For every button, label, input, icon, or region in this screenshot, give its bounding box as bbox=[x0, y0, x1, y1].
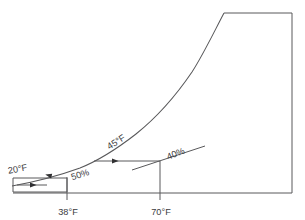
axis-label-70f: 70°F bbox=[144, 201, 178, 219]
axis-label-38f: 38°F bbox=[51, 201, 85, 219]
diagram-canvas bbox=[0, 0, 305, 220]
axis-label-70f-text: 70°F bbox=[151, 207, 171, 217]
label-inlet-temp-text: 20°F bbox=[7, 163, 28, 176]
axis-label-38f-text: 38°F bbox=[58, 207, 78, 217]
inlet-flow-arrow-head bbox=[30, 182, 37, 187]
label-inlet-temp: 20°F bbox=[6, 157, 28, 178]
saturation-curve bbox=[12, 13, 224, 186]
psychrometric-diagram: 20°F 50% 45°F 40% 38°F 70°F bbox=[0, 0, 305, 220]
process-arrow-head-right bbox=[112, 158, 119, 163]
